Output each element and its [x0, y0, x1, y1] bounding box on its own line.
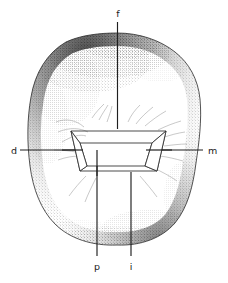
label-distal: d [11, 145, 17, 156]
cavity-preparation-box [71, 131, 166, 171]
label-facial: f [116, 8, 120, 19]
label-pulpal: p [94, 261, 100, 272]
cavity-floor [80, 143, 152, 166]
tooth-diagram-figure: f d m p i [0, 0, 228, 283]
label-mesial: m [208, 145, 217, 156]
diagram-canvas: f d m p i [0, 0, 228, 283]
label-axial: i [130, 261, 133, 272]
